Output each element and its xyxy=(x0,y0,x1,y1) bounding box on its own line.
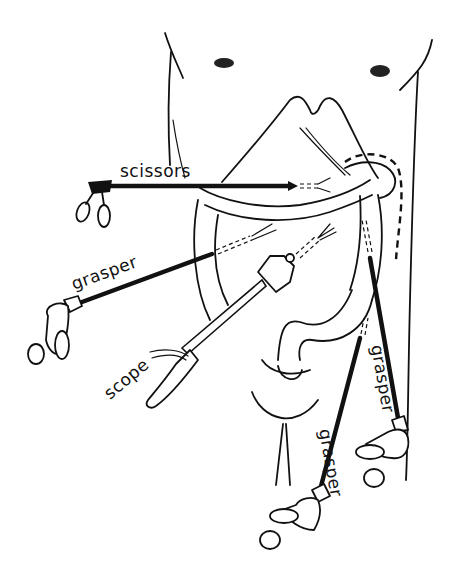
label-scissors: scissors xyxy=(120,161,191,181)
scope-instrument xyxy=(147,224,336,408)
label-grasper-right: grasper xyxy=(367,343,399,414)
label-grasper-left: grasper xyxy=(69,251,140,293)
grasper-left-instrument xyxy=(28,224,276,364)
laparoscopy-illustration: scissors grasper scope grasper grasper xyxy=(0,0,453,577)
costal-margin xyxy=(222,97,378,182)
label-scope: scope xyxy=(100,354,153,403)
nipple-marks xyxy=(214,58,390,77)
grasper-lower-right-instrument xyxy=(260,318,368,549)
